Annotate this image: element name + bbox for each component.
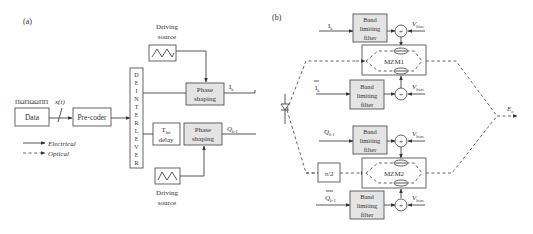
output-q-label: Qk-1	[227, 125, 238, 134]
driving-source-top-line1: Driving	[156, 23, 178, 31]
bias-4-label: Vbias	[412, 194, 424, 203]
bit-delay-block: Tbit delay	[153, 123, 180, 145]
adder-4: +	[395, 199, 407, 211]
diagram-canvas: (a) ΠΩΠΩΩΠΠ x(t) Data Pre-coder D E I N …	[0, 0, 533, 234]
optical-path-lower-out	[426, 116, 497, 173]
input-qk-label: Qk-1	[324, 128, 335, 137]
filter-label: limiting	[357, 202, 378, 209]
driver-to-phase-top-arrow	[176, 51, 206, 82]
optical-path-upper-out	[426, 61, 497, 116]
filter-label: limiting	[360, 137, 381, 144]
mzm1-block: MZM1	[362, 45, 426, 75]
filter-label: limiting	[357, 92, 378, 99]
bias-3-label: Vbias	[412, 130, 424, 139]
optical-path-upper-in	[287, 61, 356, 110]
plus-icon: +	[399, 138, 403, 146]
deint-letter: R	[134, 120, 138, 126]
bias-2-label: Vbias	[412, 83, 424, 92]
output-eo-label: Eo	[506, 105, 514, 114]
phase-shifter-block: π/2	[318, 163, 340, 182]
signal-label: x(t)	[54, 98, 65, 106]
filter-label: filter	[361, 101, 374, 108]
deint-letter: E	[135, 152, 139, 158]
deint-letter: E	[135, 112, 139, 118]
deint-letter: D	[134, 72, 139, 78]
deinterleaver-block: D E I N T E R L E V E R	[130, 68, 143, 168]
band-limiting-filter-1: Band limiting filter	[353, 14, 387, 42]
filter-label: Band	[360, 193, 374, 200]
input-qk-bar-label: Qk-1	[325, 194, 336, 203]
plus-icon: +	[399, 202, 403, 210]
filter-label: filter	[364, 146, 377, 153]
driver-to-phase-bottom-arrow	[180, 146, 204, 176]
bias-1-label: Vbias	[412, 20, 424, 29]
band-limiting-filter-2: Band limiting filter	[350, 80, 384, 109]
panel-b-label: (b)	[272, 13, 282, 22]
filter-label: Band	[363, 16, 377, 23]
data-block-label: Data	[25, 113, 40, 122]
bit-pattern: ΠΩΠΩΩΠΠ	[15, 98, 49, 105]
input-ik-bar-label: Ik	[315, 84, 320, 93]
panel-b: (b) Ik Band limiting filter + Vbias	[272, 13, 517, 219]
deint-letter: R	[134, 160, 138, 166]
panel-a: (a) ΠΩΠΩΩΠΠ x(t) Data Pre-coder D E I N …	[15, 17, 256, 207]
adder-3: +	[395, 135, 407, 147]
legend-electrical: Electrical	[47, 140, 76, 148]
driving-source-top-line2: source	[158, 33, 176, 41]
optical-path-lower-in	[287, 110, 318, 173]
signal-tick	[58, 108, 62, 122]
mzm2-label: MZM2	[384, 170, 405, 178]
phase-shaping-top-line1: Phase	[197, 86, 213, 94]
driving-source-bottom	[155, 168, 180, 184]
filter-label: filter	[361, 211, 374, 218]
plus-icon: +	[399, 91, 403, 99]
deint-letter: E	[135, 136, 139, 142]
mzm2-block: MZM2	[362, 158, 426, 188]
deint-letter: V	[134, 144, 139, 150]
deint-letter: I	[136, 88, 138, 94]
legend-optical: Optical	[48, 150, 69, 158]
driving-source-top	[149, 45, 176, 61]
filter-label: filter	[364, 34, 377, 41]
deint-letter: L	[135, 128, 139, 134]
adder-1: +	[395, 25, 407, 37]
filter-label: Band	[363, 128, 377, 135]
precoder-block: Pre-coder	[73, 108, 111, 126]
plus-icon: +	[399, 28, 403, 36]
mzm1-label: MZM1	[384, 58, 405, 66]
phase-shift-label: π/2	[325, 170, 334, 178]
band-limiting-filter-3: Band limiting filter	[353, 126, 387, 154]
phase-shaping-top-line2: shaping	[194, 95, 216, 103]
panel-a-label: (a)	[23, 17, 32, 26]
legend: Electrical Optical	[23, 140, 76, 158]
adder-2: +	[395, 88, 407, 100]
band-limiting-filter-4: Band limiting filter	[350, 191, 384, 219]
deint-letter: N	[134, 96, 139, 102]
input-ik-label: Ik	[328, 22, 333, 31]
phase-shaping-bottom-line2: shaping	[192, 135, 214, 143]
filter-label: limiting	[360, 25, 381, 32]
precoder-label: Pre-coder	[77, 113, 107, 122]
driving-source-bottom-line2: source	[158, 199, 176, 207]
phase-shaping-top: Phase shaping	[186, 83, 224, 105]
phase-shaping-bottom: Phase shaping	[184, 123, 222, 145]
filter-label: Band	[360, 83, 374, 90]
deint-letter: T	[135, 104, 139, 110]
phase-shaping-bottom-line1: Phase	[195, 126, 211, 134]
driving-source-bottom-line1: Driving	[156, 189, 178, 197]
output-i-label: Ik	[229, 83, 234, 92]
deint-letter: E	[135, 80, 139, 86]
delay-line2: delay	[158, 136, 174, 144]
data-block: Data	[15, 108, 49, 126]
